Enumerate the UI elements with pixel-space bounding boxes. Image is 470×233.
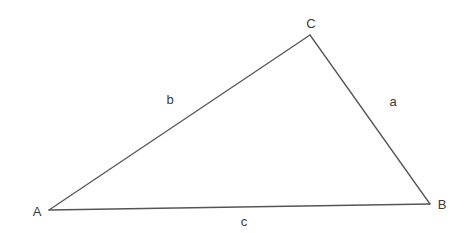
side-label-c: c <box>241 215 248 228</box>
vertex-label-c: C <box>306 17 315 30</box>
triangle-diagram <box>0 0 470 233</box>
vertex-label-a: A <box>33 205 42 218</box>
side-a-line <box>310 35 430 204</box>
vertex-label-b: B <box>438 198 447 211</box>
side-c-line <box>49 204 430 210</box>
side-b-line <box>49 35 310 210</box>
side-label-b: b <box>166 93 173 106</box>
side-label-a: a <box>389 95 396 108</box>
